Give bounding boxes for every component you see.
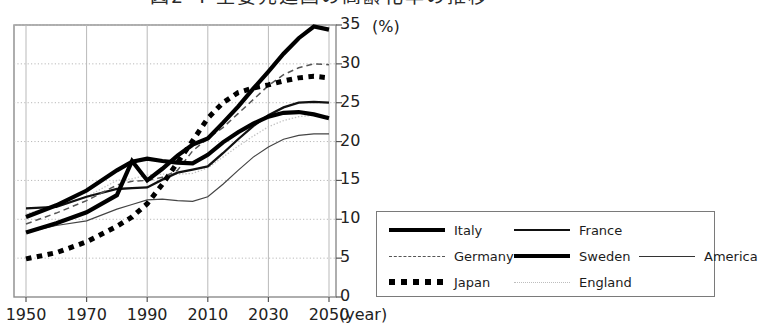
y-tick-25: 25: [340, 92, 360, 111]
legend-item-england[interactable]: England: [512, 269, 632, 295]
legend-label-germany: Germany: [454, 249, 514, 264]
y-tick-30: 30: [340, 53, 360, 72]
legend-label-america: America: [704, 249, 758, 264]
legend-swatch-italy-icon: [387, 223, 447, 237]
legend-item-sweden[interactable]: Sweden: [512, 243, 630, 269]
legend-item-france[interactable]: France: [512, 217, 622, 243]
legend-item-japan[interactable]: Japan: [387, 269, 490, 295]
x-tick-2030: 2030: [242, 305, 294, 324]
legend-swatch-sweden-icon: [512, 249, 572, 263]
legend-label-england: England: [579, 275, 632, 290]
x-axis-unit-label: (year): [339, 305, 387, 324]
legend-label-france: France: [579, 223, 622, 238]
x-tick-1970: 1970: [61, 305, 113, 324]
legend-label-italy: Italy: [454, 223, 482, 238]
legend-swatch-america-icon: [637, 249, 697, 263]
x-tick-1950: 1950: [0, 305, 52, 324]
chart-legend: ItalyFranceGermanySwedenAmericaJapanEngl…: [376, 211, 715, 297]
legend-swatch-england-icon: [512, 275, 572, 289]
y-tick-15: 15: [340, 169, 360, 188]
y-tick-5: 5: [340, 247, 350, 266]
legend-swatch-france-icon: [512, 223, 572, 237]
legend-swatch-germany-icon: [387, 249, 447, 263]
y-axis-unit-label: (%): [372, 17, 400, 36]
y-tick-20: 20: [340, 131, 360, 150]
legend-item-germany[interactable]: Germany: [387, 243, 514, 269]
legend-item-america[interactable]: America: [637, 243, 758, 269]
legend-label-japan: Japan: [454, 275, 490, 290]
y-tick-0: 0: [340, 286, 350, 305]
y-tick-35: 35: [340, 14, 360, 33]
x-tick-1990: 1990: [121, 305, 173, 324]
legend-label-sweden: Sweden: [579, 249, 630, 264]
x-tick-2010: 2010: [182, 305, 234, 324]
legend-swatch-japan-icon: [387, 275, 447, 289]
y-tick-10: 10: [340, 208, 360, 227]
legend-item-italy[interactable]: Italy: [387, 217, 482, 243]
